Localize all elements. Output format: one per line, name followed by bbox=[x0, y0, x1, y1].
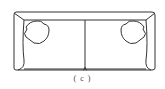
right-arm-inner bbox=[146, 20, 151, 70]
cushion-divider bbox=[83, 20, 87, 70]
left-arm-corner bbox=[14, 13, 24, 20]
right-pillow bbox=[121, 21, 146, 44]
right-arm-corner bbox=[146, 13, 155, 20]
left-pillow bbox=[25, 21, 50, 44]
sofa-drawing bbox=[0, 0, 165, 72]
figure-caption: ( c ) bbox=[0, 74, 165, 83]
left-arm-inner bbox=[18, 20, 24, 70]
